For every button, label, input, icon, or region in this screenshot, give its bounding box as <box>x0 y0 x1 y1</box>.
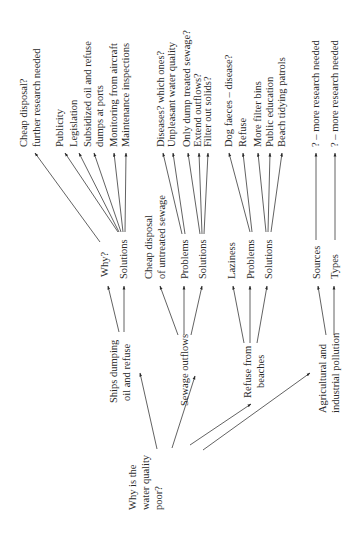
branch-refuse: Refuse from beaches <box>242 346 266 398</box>
edge-refuse-laziness <box>233 286 244 343</box>
leaf-cheap-disposal-line1: Cheap disposal? <box>18 78 29 147</box>
edge-agri-sources <box>318 286 326 335</box>
branch-refuse-line2: beaches <box>255 355 266 388</box>
leaf-diseases: Diseases? which ones? <box>155 50 166 147</box>
branch-agri-line1: Agricultural and <box>317 343 328 413</box>
edge-refuse-solutions <box>257 286 267 343</box>
node-ships-why: Why? <box>99 252 110 277</box>
leaf-subsidized-line2: dumps at ports <box>94 85 105 147</box>
branch-ships-line1: Ships dumping <box>108 339 119 403</box>
node-refuse-solutions: Solutions <box>263 239 274 279</box>
leaf-publicity: Publicity <box>54 108 65 147</box>
leaves-refuse: Dog faeces – disease? Refuse More filter… <box>223 54 287 147</box>
node-sewage-cheap-line1: Cheap disposal <box>143 215 154 279</box>
leaf-filter-bins: More filter bins <box>252 81 263 147</box>
branch-sewage-line1: Sewage outflows <box>179 334 190 406</box>
node-sewage-cheap-line2: of untreated sewage <box>156 195 167 279</box>
root-node: Why is the water quality poor? <box>127 454 164 510</box>
leaf-types-research: ? – more research needed <box>329 40 340 147</box>
node-refuse-laziness: Laziness <box>226 242 237 279</box>
node-agri-types: Types <box>329 254 340 279</box>
branch-agri: Agricultural and industrial pollution <box>317 332 341 413</box>
leaves-agri: ? – more research needed ? – more resear… <box>310 40 340 147</box>
node-agri-sources: Sources <box>311 246 322 279</box>
leaf-refuse: Refuse <box>237 118 248 147</box>
edge-sol3-patrols <box>271 153 282 232</box>
node-sewage-problems: Problems <box>179 239 190 279</box>
root-label-line3: poor? <box>153 486 164 510</box>
leaves-sewage: Diseases? which ones? Unpleasant water q… <box>155 30 213 147</box>
root-label-line2: water quality <box>140 454 151 510</box>
edge-sol2-extend <box>199 153 202 234</box>
leaf-filter-solids: Filter out solids? <box>202 76 213 147</box>
leaf-public-education: Public education <box>264 76 275 147</box>
edge-root-refuse <box>190 404 251 445</box>
edge-root-ships <box>140 373 157 449</box>
leaf-subsidized-line1: Subsidized oil and refuse <box>82 41 93 147</box>
root-label-line1: Why is the <box>127 464 138 510</box>
edge-sol3-education <box>268 153 270 232</box>
edge-sewage-solutions <box>191 286 202 335</box>
edge-sol1-monitoring <box>114 153 123 232</box>
leaf-dog-faeces: Dog faeces – disease? <box>223 54 234 147</box>
edge-sol1-publicity <box>65 153 118 232</box>
leaf-monitoring: Monitoring from aircraft <box>108 43 119 147</box>
branch-refuse-line1: Refuse from <box>242 346 253 398</box>
leaf-maintenance: Maintenance inspections <box>120 43 131 147</box>
node-ships-solutions: Solutions <box>118 239 129 279</box>
edge-prob2-dog <box>229 153 250 232</box>
leaf-sources-research: ? – more research needed <box>310 40 321 147</box>
edge-prob2-refuse <box>243 153 252 232</box>
leaf-unpleasant: Unpleasant water quality <box>166 41 177 147</box>
leaves-ships-solutions: Publicity Legislation Subsidized oil and… <box>54 41 131 147</box>
leaf-legislation: Legislation <box>68 99 79 147</box>
edge-sol3-bins <box>258 153 266 232</box>
mind-map-diagram: Why is the water quality poor? Ships dum… <box>0 0 358 534</box>
branch-sewage: Sewage outflows <box>179 334 190 406</box>
leaves-ships-why: Cheap disposal? further research needed <box>18 48 42 147</box>
edge-sol1-legislation <box>79 153 119 232</box>
leaf-cheap-disposal-line2: further research needed <box>31 48 42 147</box>
branch-ships-line2: oil and refuse <box>121 344 132 401</box>
node-sewage-solutions: Solutions <box>197 239 208 279</box>
edge-sol2-onlydump <box>188 153 200 234</box>
edge-sol1-subsidized <box>94 153 121 232</box>
edge-sol1-maintenance <box>125 153 126 232</box>
edge-sol2-filter <box>204 153 208 234</box>
edge-sewage-cheap <box>160 286 178 335</box>
branch-agri-line2: industrial pollution <box>330 332 341 413</box>
node-refuse-problems: Problems <box>245 239 256 279</box>
edge-why-leaf <box>35 153 100 242</box>
leaf-beach-patrols: Beach tidying patrols <box>276 57 287 147</box>
branch-ships: Ships dumping oil and refuse <box>108 339 132 403</box>
leaf-only-dump: Only dump treated sewage? <box>181 30 192 147</box>
edge-ships-why <box>108 286 119 332</box>
